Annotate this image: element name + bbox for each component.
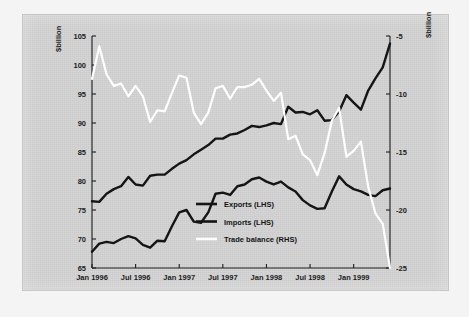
left-axis-tick-label: 100 xyxy=(73,61,86,70)
legend-label-trade-balance-rhs: Trade balance (RHS) xyxy=(224,235,297,244)
legend-label-exports-lhs: Exports (LHS) xyxy=(224,200,275,209)
left-axis-tick-label: 70 xyxy=(78,235,86,244)
x-axis-tick-label: Jul 1996 xyxy=(121,273,151,282)
x-axis-tick-label: Jan 1998 xyxy=(251,273,283,282)
axes-group: 10510095908580757065-5-10-15-20-25Jan 19… xyxy=(73,32,406,282)
left-axis-tick-label: 105 xyxy=(73,32,86,41)
x-axis-tick-label: Jul 1997 xyxy=(208,273,238,282)
legend-label-imports-lhs: Imports (LHS) xyxy=(224,218,274,227)
chart-canvas: 10510095908580757065-5-10-15-20-25Jan 19… xyxy=(0,0,469,317)
x-axis-tick-label: Jan 1997 xyxy=(163,273,195,282)
right-axis-tick-label: -25 xyxy=(396,264,407,273)
x-axis-tick-label: Jan 1996 xyxy=(76,273,108,282)
series-line-imports-lhs xyxy=(92,44,390,202)
right-axis-tick-label: -5 xyxy=(396,32,403,41)
right-axis-tick-label: -10 xyxy=(396,90,407,99)
left-axis-tick-label: 75 xyxy=(78,206,86,215)
left-axis-tick-label: 95 xyxy=(78,90,86,99)
x-axis-tick-label: Jan 1999 xyxy=(338,273,370,282)
left-axis-tick-label: 85 xyxy=(78,148,86,157)
left-axis-tick-label: 90 xyxy=(78,119,86,128)
left-axis-tick-label: 65 xyxy=(78,264,86,273)
chart-figure: $billion $billion 10510095908580757065-5… xyxy=(0,0,469,317)
right-axis-tick-label: -15 xyxy=(396,148,407,157)
right-axis-tick-label: -20 xyxy=(396,206,407,215)
x-axis-tick-label: Jul 1998 xyxy=(295,273,325,282)
left-axis-tick-label: 80 xyxy=(78,177,86,186)
